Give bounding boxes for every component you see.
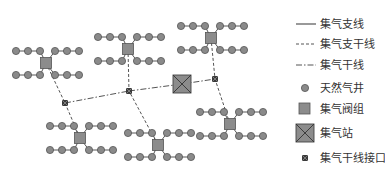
gas-well-icon (177, 46, 184, 53)
gas-well-icon (201, 22, 208, 29)
gas-well-icon (187, 153, 194, 160)
legend-junction-icon (302, 155, 308, 161)
legend-label-branch-line: 集气支线 (320, 17, 364, 31)
sub-trunk-line (128, 49, 129, 91)
trunk-interface-j2 (126, 88, 132, 94)
gas-well-icon (175, 153, 182, 160)
cluster-a (12, 47, 82, 78)
gas-well-icon (157, 57, 164, 64)
gas-well-icon (235, 108, 242, 115)
gas-well-icon (12, 71, 19, 78)
legend-label-trunk-line: 集气干线 (320, 58, 364, 72)
sub-trunk-line (215, 79, 230, 124)
gas-well-icon (36, 71, 43, 78)
gas-well-icon (177, 22, 184, 29)
gas-well-icon (133, 57, 140, 64)
gas-well-icon (201, 46, 208, 53)
legend-station-icon (296, 124, 314, 142)
gas-well-icon (148, 129, 155, 136)
gas-well-icon (75, 71, 82, 78)
gas-well-icon (189, 46, 196, 53)
nodes-layer (12, 22, 266, 160)
gas-well-icon (220, 108, 227, 115)
gas-well-icon (46, 146, 53, 153)
trunk-interface-j3 (212, 76, 218, 82)
cluster-f (196, 108, 266, 139)
legend-label-valve-group: 集气阀组 (320, 102, 364, 116)
gas-well-icon (24, 71, 31, 78)
gas-well-icon (133, 33, 140, 40)
gas-well-icon (157, 33, 164, 40)
gas-well-icon (145, 33, 152, 40)
legend-label-trunk-interface: 集气干线接口 (320, 151, 385, 165)
gas-well-icon (208, 108, 215, 115)
trunk-interface-j1 (62, 100, 68, 106)
sub-trunk-line (46, 63, 65, 103)
gas-well-icon (235, 132, 242, 139)
gas-well-icon (259, 132, 266, 139)
valve-group-icon (153, 140, 164, 151)
gas-well-icon (240, 46, 247, 53)
valve-group-icon (225, 119, 236, 130)
valve-group-icon (41, 58, 52, 69)
gas-well-icon (124, 153, 131, 160)
gas-well-icon (163, 153, 170, 160)
gas-well-icon (36, 47, 43, 54)
gas-well-icon (228, 22, 235, 29)
gas-well-icon (46, 122, 53, 129)
gas-gathering-network-diagram: 集气支线 集气支干线 集气干线 天然气井 集气阀组 集气站 集气干线接口 (0, 0, 385, 180)
valve-group-icon (123, 44, 134, 55)
gas-well-icon (51, 47, 58, 54)
gas-well-icon (109, 122, 116, 129)
gas-well-icon (216, 22, 223, 29)
gas-well-icon (247, 108, 254, 115)
gas-well-icon (189, 22, 196, 29)
cluster-e (124, 129, 194, 160)
gas-well-icon (148, 153, 155, 160)
gas-well-icon (85, 146, 92, 153)
gas-well-icon (75, 47, 82, 54)
gas-well-icon (58, 146, 65, 153)
gas-well-icon (85, 122, 92, 129)
gas-well-icon (70, 122, 77, 129)
gas-well-icon (51, 71, 58, 78)
gas-well-icon (187, 129, 194, 136)
gas-well-icon (118, 33, 125, 40)
legend: 集气支线 集气支干线 集气干线 天然气井 集气阀组 集气站 集气干线接口 (296, 17, 385, 165)
cluster-b (94, 33, 164, 64)
trunk-line (65, 91, 129, 103)
valve-group-icon (206, 33, 217, 44)
gas-well-icon (97, 122, 104, 129)
gas-well-icon (12, 47, 19, 54)
legend-well-icon (301, 84, 308, 91)
gas-well-icon (240, 22, 247, 29)
gathering-station (173, 75, 191, 93)
gas-well-icon (247, 132, 254, 139)
gas-well-icon (196, 132, 203, 139)
gas-well-icon (94, 57, 101, 64)
gas-well-icon (136, 129, 143, 136)
gas-well-icon (58, 122, 65, 129)
gas-well-icon (163, 129, 170, 136)
gas-well-icon (118, 57, 125, 64)
legend-valve-group-icon (299, 103, 310, 114)
gas-well-icon (259, 108, 266, 115)
gas-well-icon (175, 129, 182, 136)
gas-well-icon (136, 153, 143, 160)
sub-trunk-line (211, 38, 215, 79)
gas-well-icon (106, 33, 113, 40)
gas-well-icon (97, 146, 104, 153)
legend-label-gas-well: 天然气井 (320, 81, 364, 95)
gas-well-icon (124, 129, 131, 136)
cluster-d (46, 122, 116, 153)
gas-well-icon (109, 146, 116, 153)
gas-well-icon (24, 47, 31, 54)
legend-label-sub-trunk-line: 集气支干线 (320, 37, 375, 51)
gas-well-icon (196, 108, 203, 115)
gas-well-icon (106, 57, 113, 64)
gas-well-icon (63, 47, 70, 54)
legend-label-gathering-station: 集气站 (320, 126, 353, 140)
gas-well-icon (216, 46, 223, 53)
gas-well-icon (70, 146, 77, 153)
valve-group-icon (75, 133, 86, 144)
